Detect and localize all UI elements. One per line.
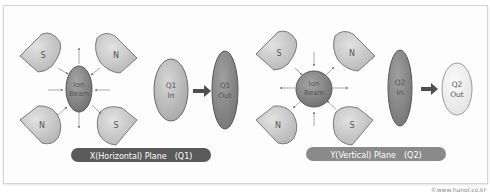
q1-in-ellipse: Q1 In (154, 59, 188, 121)
magnet-bottom-left: N (20, 106, 61, 144)
pole-label-n: N (113, 51, 119, 60)
pole-label-n: N (349, 49, 355, 58)
copyright-text: ©www.hanol.co.kr (431, 186, 486, 193)
svg-text:Q2: Q2 (452, 80, 463, 89)
arrow-right-icon (193, 85, 211, 97)
q1-out-ellipse: Q1 Out (212, 51, 238, 129)
pole-label-n: N (39, 121, 45, 130)
magnet-top-right: N (334, 31, 375, 71)
svg-text:In: In (397, 88, 404, 97)
pole-label-s: S (40, 51, 45, 60)
svg-text:Out: Out (450, 90, 464, 99)
svg-text:Q1: Q1 (166, 81, 177, 90)
magnet-top-right: N (96, 33, 137, 73)
svg-text:Ion: Ion (74, 81, 85, 89)
svg-text:Ion: Ion (309, 80, 320, 88)
svg-text:Q2: Q2 (395, 78, 406, 87)
svg-text:Out: Out (218, 91, 232, 100)
arrow-right-icon (421, 83, 438, 95)
magnet-top-left: S (256, 31, 297, 70)
svg-text:Y(Vertical) Plane (Q2): Y(Vertical) Plane (Q2) (329, 151, 421, 160)
caption-y-plane: Y(Vertical) Plane (Q2) (306, 147, 446, 161)
svg-text:Beam: Beam (69, 90, 89, 98)
q2-in-ellipse: Q2 In (388, 50, 412, 126)
ion-beam-ellipse: Ion Beam (66, 66, 92, 112)
svg-text:X(Horizontal) Plane (Q1): X(Horizontal) Plane (Q1) (90, 152, 193, 161)
caption-x-plane: X(Horizontal) Plane (Q1) (71, 148, 211, 162)
magnet-top-left: S (20, 33, 61, 72)
pole-label-n: N (275, 121, 281, 130)
pole-label-s: S (113, 121, 118, 130)
magnet-bottom-right: S (333, 107, 373, 145)
pole-label-s: S (276, 49, 281, 58)
svg-text:Beam: Beam (304, 89, 324, 97)
svg-text:In: In (168, 91, 175, 100)
magnet-bottom-left: N (256, 106, 297, 144)
pole-label-s: S (349, 121, 354, 130)
quadrupole-diagram: S N N S Ion Beam (0, 0, 490, 193)
magnet-bottom-right: S (97, 107, 137, 145)
x-plane-panel: S N N S Ion Beam (20, 33, 238, 162)
y-plane-panel: S N N S Ion Beam (256, 31, 472, 161)
ion-beam-circle: Ion Beam (296, 71, 332, 107)
svg-text:Q1: Q1 (220, 81, 231, 90)
q2-out-ellipse: Q2 Out (442, 63, 472, 115)
